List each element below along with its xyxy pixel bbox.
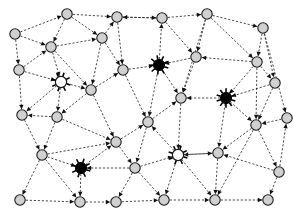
graph-edge — [26, 199, 74, 203]
graph-edge — [86, 200, 110, 204]
edge-arrowhead — [28, 113, 33, 117]
edge-arrowhead — [107, 14, 112, 18]
edge-arrowhead — [254, 115, 258, 119]
edge-arrowhead — [136, 158, 140, 163]
edges-layer — [16, 13, 288, 204]
edge-arrowhead — [116, 60, 120, 65]
graph-edge — [182, 62, 194, 92]
graph-edge — [170, 198, 209, 202]
graph-node-grey[interactable] — [157, 13, 167, 23]
edge-arrowhead — [187, 96, 191, 100]
graph-node-grey[interactable] — [111, 197, 121, 207]
graph-edge — [168, 13, 201, 18]
graph-edge — [166, 22, 192, 52]
graph-node-grey[interactable] — [17, 110, 27, 120]
graph-edge — [26, 86, 56, 112]
edge-arrowhead — [282, 108, 286, 113]
edge-arrowhead — [171, 101, 176, 105]
graph-node-grey[interactable] — [15, 195, 25, 205]
graph-node-grey[interactable] — [62, 9, 72, 19]
graph-edge — [57, 38, 97, 46]
graph-node-grey[interactable] — [251, 120, 261, 130]
edge-arrowhead — [152, 126, 157, 131]
edge-arrowhead — [81, 85, 86, 89]
graph-node-grey[interactable] — [130, 163, 140, 173]
graph-edge — [218, 130, 253, 195]
graph-node-grey[interactable] — [111, 137, 121, 147]
graph-node-grey[interactable] — [46, 42, 56, 52]
graph-edge — [264, 34, 275, 78]
edge-arrowhead — [41, 50, 46, 54]
graph-edge — [270, 177, 277, 194]
graph-node-grey[interactable] — [258, 23, 268, 33]
graph-edge — [96, 73, 118, 87]
graph-edge — [86, 145, 112, 164]
edge-arrowhead — [106, 142, 111, 146]
graph-edge — [136, 128, 147, 163]
edge-arrowhead — [197, 13, 202, 17]
graph-node-grey[interactable] — [86, 85, 96, 95]
graph-edge — [122, 198, 158, 202]
graph-node-black[interactable] — [220, 92, 231, 103]
graph-edge — [48, 142, 111, 154]
graph-node-black[interactable] — [153, 59, 164, 70]
edge-arrowhead — [217, 143, 221, 148]
graph-edge — [25, 72, 56, 82]
graph-edge — [48, 157, 76, 167]
edge-arrowhead — [41, 41, 46, 45]
edge-arrowhead — [283, 124, 287, 129]
graph-node-grey[interactable] — [202, 9, 212, 19]
graph-edge — [232, 85, 270, 97]
graph-edge — [213, 15, 258, 27]
graph-node-grey[interactable] — [282, 113, 292, 123]
edge-arrowhead — [165, 190, 169, 195]
graph-edge — [62, 94, 87, 114]
graph-edge — [202, 56, 251, 62]
graph-node-grey[interactable] — [252, 57, 262, 67]
graph-edge — [213, 159, 217, 194]
graph-edge — [94, 95, 114, 137]
graph-edge — [62, 119, 110, 140]
graph-edge — [152, 126, 174, 150]
graph-node-grey[interactable] — [274, 167, 284, 177]
graph-node-grey[interactable] — [14, 65, 24, 75]
edge-arrowhead — [148, 112, 152, 117]
graph-node-grey[interactable] — [263, 195, 273, 205]
graph-node-grey[interactable] — [159, 195, 169, 205]
graph-node-hollow[interactable] — [55, 76, 66, 87]
graph-edge — [148, 71, 158, 117]
graph-node-grey[interactable] — [97, 33, 107, 43]
edge-arrowhead — [159, 24, 163, 29]
graph-node-grey[interactable] — [176, 93, 186, 103]
graph-node-black[interactable] — [75, 162, 86, 173]
edge-arrowhead — [258, 198, 262, 202]
graph-edge — [44, 122, 55, 149]
graph-node-grey[interactable] — [75, 197, 85, 207]
graph-node-grey[interactable] — [10, 29, 20, 39]
graph-edge — [165, 58, 191, 65]
edge-arrowhead — [106, 136, 111, 140]
graph-node-grey[interactable] — [270, 78, 280, 88]
edge-arrowhead — [253, 23, 258, 27]
edge-arrowhead — [138, 125, 143, 129]
graph-node-grey[interactable] — [213, 148, 223, 158]
graph-node-grey[interactable] — [210, 195, 220, 205]
graph-node-grey[interactable] — [118, 65, 128, 75]
graph-edge — [19, 76, 23, 109]
graph-node-hollow[interactable] — [172, 149, 183, 160]
graph-node-grey[interactable] — [143, 117, 153, 127]
edge-arrowhead — [78, 192, 82, 196]
graph-node-grey[interactable] — [191, 52, 201, 62]
edge-arrowhead — [113, 73, 118, 77]
graph-edge — [119, 173, 132, 197]
edge-arrowhead — [16, 60, 20, 65]
graph-edge — [72, 17, 97, 34]
graph-node-grey[interactable] — [52, 112, 62, 122]
graph-node-grey[interactable] — [37, 150, 47, 160]
graph-node-grey[interactable] — [112, 12, 122, 22]
edge-arrowhead — [107, 145, 112, 149]
graph-edge — [162, 70, 178, 93]
graph-edge — [23, 160, 40, 195]
edge-arrowhead — [62, 109, 67, 113]
edge-arrowhead — [70, 199, 74, 203]
